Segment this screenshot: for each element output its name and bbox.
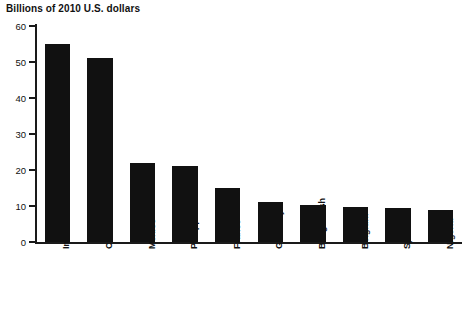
y-axis-tick-label: 20 <box>0 165 26 176</box>
x-axis-label: Nigeria <box>445 218 455 249</box>
bar <box>45 44 71 242</box>
y-axis-tick <box>29 133 36 135</box>
y-axis-tick <box>29 61 36 63</box>
x-axis-label: China <box>104 224 114 249</box>
x-axis-label: India <box>61 228 71 249</box>
x-axis-line <box>35 242 462 244</box>
x-axis-label: Belgium <box>360 213 370 249</box>
y-axis-tick <box>29 25 36 27</box>
y-axis-tick-label: 60 <box>0 21 26 32</box>
x-axis-label: Philippines <box>189 201 199 249</box>
x-axis-label: Mexico <box>147 218 157 249</box>
y-axis-tick-label: 0 <box>0 237 26 248</box>
y-axis-tick-label: 10 <box>0 201 26 212</box>
chart-title: Billions of 2010 U.S. dollars <box>6 3 140 14</box>
bar <box>87 58 113 242</box>
bar-chart: Billions of 2010 U.S. dollars 0102030405… <box>0 0 465 314</box>
y-axis-tick-label: 30 <box>0 129 26 140</box>
x-axis-label: Germany <box>274 210 284 249</box>
y-axis-tick <box>29 205 36 207</box>
y-axis-tick-label: 40 <box>0 93 26 104</box>
x-axis-label: France <box>232 219 242 249</box>
y-axis-tick <box>29 97 36 99</box>
plot-area <box>36 26 462 242</box>
x-axis-label: Spain <box>402 224 412 249</box>
y-axis-tick <box>29 241 36 243</box>
y-axis-tick-label: 50 <box>0 57 26 68</box>
x-axis-label: Bangladesh <box>317 198 327 249</box>
y-axis-tick <box>29 169 36 171</box>
